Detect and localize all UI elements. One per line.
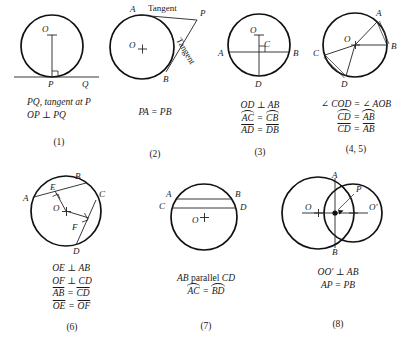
label-D: D bbox=[72, 246, 80, 256]
caption-line: AC = BD bbox=[177, 285, 235, 298]
label-P: P bbox=[355, 184, 362, 194]
panel-3-caption: OD ⊥ AB AC = CB AD = DB bbox=[241, 99, 280, 137]
caption-line: CD = AB bbox=[321, 111, 391, 124]
panel-7-number: (7) bbox=[200, 321, 211, 331]
panel-4: O A B C D ∠ COD = ∠ AOB CD = AB CD = AB … bbox=[306, 4, 406, 154]
caption-line: OP ⊥ PQ bbox=[27, 109, 91, 122]
panel-2-figure: O A B P Tangent Tangent bbox=[96, 2, 214, 90]
panel-4-caption: ∠ COD = ∠ AOB CD = AB CD = AB bbox=[321, 98, 391, 136]
panel-6: O A B C D E F OE ⊥ AB OF ⊥ CD AB = CD OE… bbox=[12, 168, 132, 332]
caption-line: OE = OF bbox=[52, 300, 92, 313]
label-Q: Q bbox=[82, 79, 89, 89]
chord-cd-1 bbox=[325, 55, 346, 76]
circle-with-perpendicular-chord-bisector-icon: O C A B D bbox=[212, 6, 308, 90]
segment-term: CD bbox=[76, 287, 90, 300]
arc-term: AC bbox=[187, 285, 200, 298]
segment-term: OF bbox=[77, 300, 91, 313]
chord-cd bbox=[76, 200, 96, 245]
arc-term: AC bbox=[241, 112, 254, 125]
label-O: O bbox=[192, 215, 199, 225]
panel-8-figure: O O' A B P bbox=[272, 170, 404, 256]
chord-term: AB bbox=[177, 273, 189, 283]
equals: = bbox=[354, 124, 360, 134]
chord-term: CD bbox=[222, 273, 235, 283]
right-angle-mark-f bbox=[82, 213, 88, 222]
label-D: D bbox=[340, 79, 348, 89]
panel-4-figure: O A B C D bbox=[306, 4, 406, 90]
equals: = bbox=[354, 112, 360, 122]
arc-term: CB bbox=[266, 112, 279, 125]
radius-oa bbox=[355, 22, 377, 45]
panel-2-caption: PA = PB bbox=[139, 106, 172, 119]
two-intersecting-circles-icon: O O' A B P bbox=[272, 170, 404, 256]
circle-shape bbox=[171, 184, 237, 250]
label-O: O bbox=[129, 40, 136, 50]
circle-with-two-tangents-icon: O A B P Tangent Tangent bbox=[96, 2, 214, 90]
segment-term: AB bbox=[52, 287, 65, 300]
label-C: C bbox=[264, 39, 271, 49]
label-F: F bbox=[71, 222, 78, 232]
label-O: O bbox=[53, 203, 60, 213]
panel-2-number: (2) bbox=[149, 149, 160, 159]
segment-term: CD bbox=[337, 123, 351, 136]
caption-line: AD = DB bbox=[241, 124, 280, 137]
label-D: D bbox=[239, 202, 247, 212]
circle-with-equal-central-angles-icon: O A B C D bbox=[306, 4, 406, 90]
caption-line: PQ, tangent at P bbox=[27, 96, 91, 109]
label-B: B bbox=[163, 74, 169, 84]
label-C: C bbox=[159, 201, 166, 211]
label-P: P bbox=[199, 8, 206, 18]
panel-3-figure: O C A B D bbox=[212, 6, 308, 90]
equals: = bbox=[67, 288, 73, 298]
panel-8: O O' A B P OO' ⊥ AB AP = PB (8) bbox=[272, 170, 404, 329]
label-A: A bbox=[217, 48, 224, 58]
caption-line: CD = AB bbox=[321, 123, 391, 136]
caption-line: OF ⊥ CD bbox=[52, 275, 92, 288]
equals: = bbox=[257, 125, 263, 135]
label-B: B bbox=[235, 189, 241, 199]
arc-term: AB bbox=[362, 111, 375, 124]
label-C: C bbox=[313, 48, 320, 58]
equals: = bbox=[68, 301, 74, 311]
label-O: O bbox=[42, 24, 49, 34]
circle-shape bbox=[110, 15, 174, 79]
label-O: O bbox=[344, 34, 351, 44]
caption-line: PA = PB bbox=[139, 106, 172, 119]
panel-7: O A B C D AB parallel CD AC = BD (7) bbox=[146, 176, 266, 331]
panel-3-number: (3) bbox=[254, 147, 265, 157]
tangent-line-pa bbox=[139, 15, 197, 20]
panel-7-figure: O A B C D bbox=[146, 176, 266, 256]
label-A: A bbox=[331, 170, 338, 180]
radius-od bbox=[346, 45, 355, 76]
label-D: D bbox=[254, 79, 262, 89]
segment-term: AB bbox=[362, 123, 375, 136]
point-p-dot bbox=[332, 210, 337, 215]
label-A: A bbox=[129, 4, 136, 14]
label-B: B bbox=[75, 171, 81, 181]
panel-8-caption: OO' ⊥ AB AP = PB bbox=[318, 266, 359, 291]
chord-ab-2 bbox=[380, 21, 390, 44]
caption-line: ∠ COD = ∠ AOB bbox=[321, 98, 391, 111]
radius-oc bbox=[325, 45, 355, 55]
segment-term: AD bbox=[241, 124, 255, 137]
caption-line: AB = CD bbox=[52, 287, 92, 300]
label-A: A bbox=[375, 8, 382, 18]
arc-term: CD bbox=[337, 111, 351, 124]
p-arrow-head bbox=[338, 210, 344, 215]
label-A: A bbox=[22, 193, 29, 203]
label-P: P bbox=[47, 79, 54, 89]
segment-term: OE bbox=[52, 300, 66, 313]
caption-line: AP = PB bbox=[318, 279, 359, 292]
panel-2: O A B P Tangent Tangent PA = PB (2) bbox=[96, 2, 214, 159]
label-O-prime: O' bbox=[369, 202, 378, 212]
panel-7-caption: AB parallel CD AC = BD bbox=[177, 272, 235, 297]
panel-3: O C A B D OD ⊥ AB AC = CB AD = DB (3) bbox=[212, 6, 308, 157]
label-O: O bbox=[305, 202, 312, 212]
caption-line: OE ⊥ AB bbox=[52, 262, 92, 275]
label-tangent-lower: Tangent bbox=[174, 36, 197, 66]
panel-6-number: (6) bbox=[66, 322, 77, 332]
caption-line: AB parallel CD bbox=[177, 272, 235, 285]
equals: = bbox=[203, 286, 209, 296]
label-C: C bbox=[99, 189, 106, 199]
panel-6-caption: OE ⊥ AB OF ⊥ CD AB = CD OE = OF bbox=[52, 262, 92, 312]
